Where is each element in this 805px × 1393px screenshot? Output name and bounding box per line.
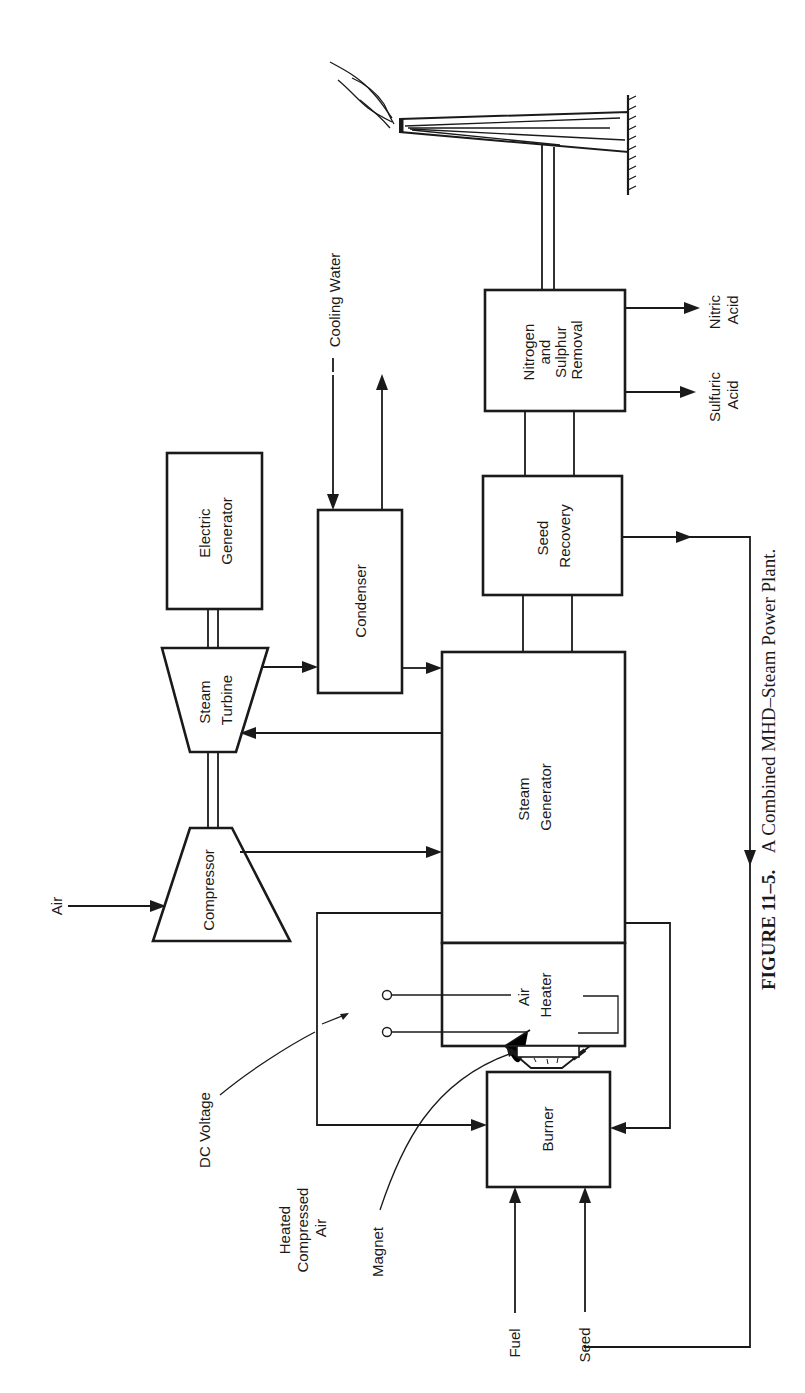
arrow-right-icon [302, 661, 318, 673]
sulfuric-acid-output: Sulfuric Acid [625, 368, 741, 422]
svg-text:Cooling Water: Cooling Water [326, 253, 343, 347]
arrow-right-icon [680, 386, 696, 398]
svg-text:Compressor: Compressor [200, 849, 217, 931]
air-input: Air [48, 897, 166, 915]
svg-text:Sulfuric Acid: Sulfuric Acid [706, 368, 741, 422]
svg-text:Magnet: Magnet [369, 1226, 386, 1277]
svg-text:Heated Compressed: Heated Compressed Air [276, 1183, 329, 1272]
steam-generator-box: Steam Generator [442, 652, 625, 943]
magnet [517, 1046, 579, 1057]
svg-text:DC Voltage: DC Voltage [196, 1092, 213, 1168]
flue-duct [542, 145, 554, 290]
electric-generator-box: Electric Generator [167, 453, 262, 609]
arrow-left-icon [610, 1122, 626, 1134]
nitric-acid-output: Nitric Acid [625, 291, 741, 329]
svg-text:Burner: Burner [539, 1106, 556, 1151]
mhd-steam-plant-diagram: Nitrogen and Sulphur Removal Nitric Acid… [0, 0, 805, 1393]
compressor: Compressor [153, 828, 290, 941]
fuel-input: Fuel [506, 1187, 523, 1358]
svg-text:Seed: Seed [576, 1327, 593, 1362]
svg-text:Nitric Acid: Nitric Acid [706, 291, 741, 329]
terminal-icon [383, 1028, 392, 1037]
arrow-right-icon [426, 846, 442, 858]
svg-text:Condenser: Condenser [352, 564, 369, 637]
burner-box: Burner [487, 1072, 610, 1187]
heated-air-line-right [620, 923, 670, 1128]
arrow-down-icon [327, 494, 339, 510]
svg-text:Nitrogen and Sulph: Nitrogen and Sulphur Removal [520, 320, 585, 381]
seed-input: Seed [576, 1187, 593, 1363]
arrow-down-icon [744, 850, 756, 866]
arrow-right-icon [684, 302, 700, 314]
smoke-icon [330, 62, 394, 128]
arrow-up-icon [376, 374, 388, 390]
svg-text:FIGURE 11–5. A Combined: FIGURE 11–5. A Combined MHD–Steam Power … [758, 549, 779, 990]
svg-text:Fuel: Fuel [506, 1328, 523, 1357]
arrow-right-icon [676, 531, 692, 543]
arrow-icon [340, 1013, 349, 1020]
smokestack [330, 62, 636, 195]
figure-caption: FIGURE 11–5. A Combined MHD–Steam Power … [758, 549, 779, 990]
arrow-right-icon [471, 1119, 487, 1131]
nitrogen-sulphur-removal-box: Nitrogen and Sulphur Removal [485, 290, 625, 411]
terminal-icon [383, 991, 392, 1000]
svg-text:Air: Air [48, 897, 65, 915]
condenser-box: Condenser [318, 510, 402, 693]
dc-voltage-label: DC Voltage [196, 1032, 315, 1168]
ground-hatching [628, 96, 636, 190]
arrow-up-icon [509, 1187, 521, 1203]
seed-recovery-box: Seed Recovery [483, 476, 622, 595]
arrow-right-icon [426, 662, 442, 674]
heated-compressed-air-label: Heated Compressed Air [276, 1183, 329, 1272]
arrow-up-icon [579, 1187, 591, 1203]
cooling-water: Cooling Water [326, 253, 388, 510]
